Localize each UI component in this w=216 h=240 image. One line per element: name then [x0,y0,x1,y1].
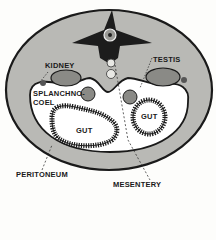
notochord-lower [107,70,116,79]
label-splanchnocoel-2: COEL [33,99,55,107]
label-mesentery: MESENTERY [113,181,161,189]
testis [146,68,180,86]
label-splanchnocoel-1: SPLANCHNO- [33,90,85,98]
label-peritoneum: PERITONEUM [16,171,68,179]
label-gut-right: GUT [141,113,157,121]
right-suspended-organ [123,90,137,104]
label-testis: TESTIS [153,56,180,64]
label-kidney: KIDNEY [45,62,75,70]
kidney [51,70,81,86]
label-gut-left: GUT [76,127,92,135]
notochord-upper [107,59,115,67]
